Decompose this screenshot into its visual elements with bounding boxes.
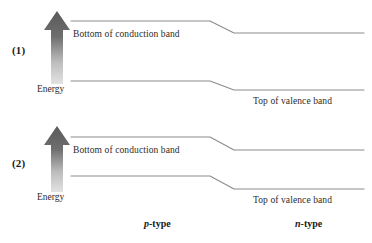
panel-label-2: (2): [12, 157, 25, 169]
energy-arrow-panel-2: [44, 126, 70, 192]
panel-label-1: (1): [12, 44, 25, 56]
valence-band-line-panel-1: [71, 81, 364, 90]
region-label-p-type: p-type: [144, 218, 171, 229]
valence-band-line-panel-2: [71, 176, 364, 189]
region-label-n-type-suffix: -type: [301, 218, 323, 229]
conduction-band-label-panel-2: Bottom of conduction band: [73, 145, 180, 155]
region-label-n-type: n-type: [295, 218, 322, 229]
energy-arrow-panel-1: [44, 11, 70, 84]
conduction-band-label-panel-1: Bottom of conduction band: [73, 29, 180, 39]
energy-axis-label-panel-1: Energy: [37, 84, 64, 94]
region-label-p-type-suffix: -type: [149, 218, 171, 229]
valence-band-label-panel-1: Top of valence band: [253, 96, 332, 106]
band-diagram-canvas: [0, 0, 372, 243]
valence-band-label-panel-2: Top of valence band: [253, 195, 332, 205]
band-diagram-figure: (1) Bottom of conduction band Energy Top…: [0, 0, 372, 243]
energy-axis-label-panel-2: Energy: [37, 192, 64, 202]
